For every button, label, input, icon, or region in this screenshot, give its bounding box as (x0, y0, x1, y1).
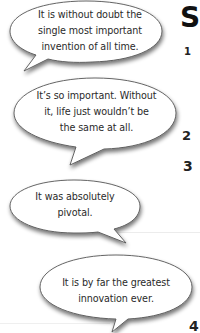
list-number-4: 4 (189, 320, 199, 332)
text-line: It was absolutely (16, 189, 134, 205)
text-line: It is by far the greatest (46, 275, 186, 291)
list-number-3: 3 (183, 160, 193, 172)
text-line: pivotal. (16, 205, 134, 221)
text-line: the same at all. (24, 120, 169, 136)
section-heading: S (180, 4, 200, 32)
page-fragment: It is without doubt the single most impo… (0, 0, 200, 333)
speech-bubble-4-text: It is by far the greatest innovation eve… (46, 275, 186, 307)
speech-bubble-1-text: It is without doubt the single most impo… (20, 7, 160, 55)
text-line: innovation ever. (46, 291, 186, 307)
list-number-1: 1 (184, 46, 191, 58)
text-line: single most important (20, 23, 160, 39)
text-line: It’s so important. Without (24, 88, 169, 104)
text-line: invention of all time. (20, 39, 160, 55)
speech-bubble-2-text: It’s so important. Without it, life just… (24, 88, 169, 136)
text-line: it, life just wouldn’t be (24, 104, 169, 120)
text-line: It is without doubt the (20, 7, 160, 23)
speech-bubble-3-text: It was absolutely pivotal. (16, 189, 134, 221)
list-number-2: 2 (182, 130, 191, 142)
